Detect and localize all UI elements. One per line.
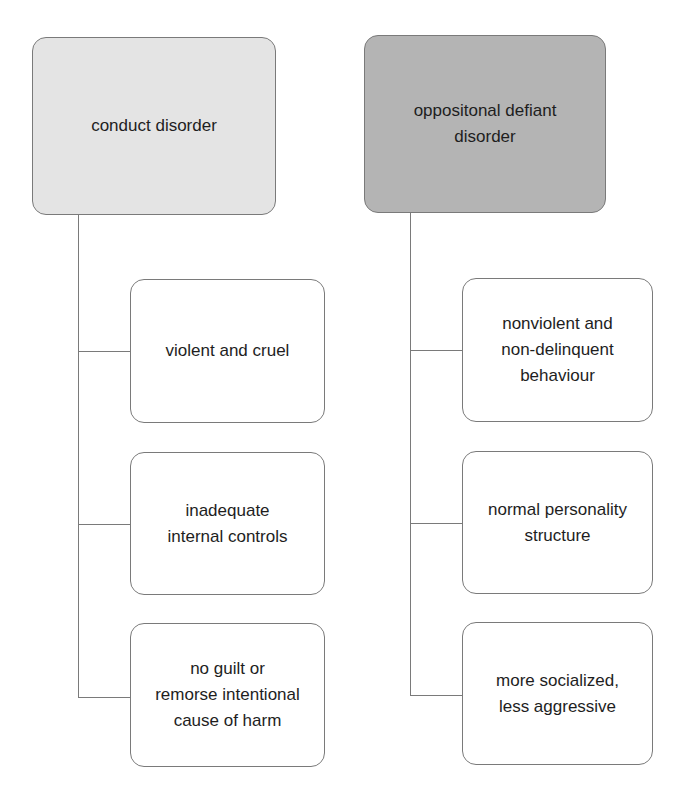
right-branch-connector-1 (410, 350, 462, 351)
trait-label: normal personality structure (488, 497, 627, 549)
left-branch-connector-2 (78, 524, 130, 525)
left-branch-connector-3 (78, 697, 130, 698)
conduct-disorder-header: conduct disorder (32, 37, 276, 215)
trait-label: more socialized, less aggressive (496, 668, 619, 720)
right-branch-connector-2 (410, 523, 462, 524)
trait-label: inadequate internal controls (167, 498, 287, 550)
conduct-trait-violent-cruel: violent and cruel (130, 279, 325, 423)
conduct-disorder-label: conduct disorder (91, 113, 217, 139)
conduct-trait-internal-controls: inadequate internal controls (130, 452, 325, 595)
right-trunk-connector (410, 213, 411, 695)
conduct-trait-no-guilt: no guilt or remorse intentional cause of… (130, 623, 325, 767)
oppositional-defiant-disorder-header: oppositonal defiant disorder (364, 35, 606, 213)
left-trunk-connector (78, 215, 79, 697)
oppositional-defiant-disorder-label: oppositonal defiant disorder (414, 98, 557, 150)
trait-label: violent and cruel (166, 338, 290, 364)
odd-trait-more-socialized: more socialized, less aggressive (462, 622, 653, 765)
left-branch-connector-1 (78, 351, 130, 352)
right-branch-connector-3 (410, 695, 462, 696)
trait-label: no guilt or remorse intentional cause of… (155, 656, 300, 734)
odd-trait-nonviolent: nonviolent and non-delinquent behaviour (462, 278, 653, 422)
trait-label: nonviolent and non-delinquent behaviour (501, 311, 613, 389)
odd-trait-normal-personality: normal personality structure (462, 451, 653, 594)
